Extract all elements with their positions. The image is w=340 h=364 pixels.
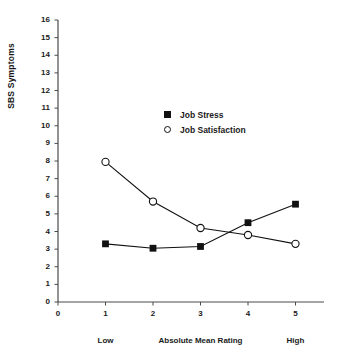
data-point-job-satisfaction-5 xyxy=(292,240,299,247)
data-point-job-stress-1 xyxy=(102,240,109,247)
data-point-job-satisfaction-4 xyxy=(244,231,251,238)
chart-figure: SBS Symptoms Job Stress Job Satisfaction… xyxy=(0,0,340,364)
x-tick-label: 2 xyxy=(145,310,161,318)
x-tick-label: 3 xyxy=(193,310,209,318)
y-tick-label: 4 xyxy=(32,228,50,236)
y-tick-label: 13 xyxy=(32,69,50,77)
legend-label: Job Stress xyxy=(180,110,223,120)
y-tick-label: 10 xyxy=(32,122,50,130)
data-point-job-satisfaction-1 xyxy=(102,158,109,165)
legend-label: Job Satisfaction xyxy=(180,125,246,135)
y-tick-label: 9 xyxy=(32,139,50,147)
y-tick-label: 3 xyxy=(32,245,50,253)
y-tick-label: 14 xyxy=(32,51,50,59)
y-tick-label: 5 xyxy=(32,210,50,218)
y-tick-label: 2 xyxy=(32,263,50,271)
x-tick-label: 5 xyxy=(288,310,304,318)
y-tick-label: 7 xyxy=(32,175,50,183)
data-point-job-satisfaction-2 xyxy=(149,198,156,205)
x-axis-annotation: Absolute Mean Rating xyxy=(159,336,243,345)
legend-item-job-stress: Job Stress xyxy=(160,107,246,122)
data-point-job-stress-4 xyxy=(245,219,252,226)
data-point-job-stress-3 xyxy=(197,243,204,250)
y-tick-label: 12 xyxy=(32,87,50,95)
chart-legend: Job Stress Job Satisfaction xyxy=(160,107,246,137)
y-tick-label: 16 xyxy=(32,16,50,24)
y-tick-label: 15 xyxy=(32,34,50,42)
data-point-job-satisfaction-3 xyxy=(197,224,204,231)
x-axis-annotation: High xyxy=(287,336,305,345)
data-point-job-stress-5 xyxy=(292,201,299,208)
y-tick-label: 8 xyxy=(32,157,50,165)
y-tick-label: 11 xyxy=(32,104,50,112)
legend-item-job-satisfaction: Job Satisfaction xyxy=(160,122,246,137)
x-axis-annotation: Low xyxy=(98,336,114,345)
x-tick-label: 4 xyxy=(240,310,256,318)
y-tick-label: 6 xyxy=(32,192,50,200)
x-tick-label: 1 xyxy=(98,310,114,318)
y-tick-label: 0 xyxy=(32,298,50,306)
data-point-job-stress-2 xyxy=(150,245,157,252)
open-circle-icon xyxy=(160,126,174,133)
x-tick-label: 0 xyxy=(50,310,66,318)
filled-square-icon xyxy=(160,111,174,118)
y-tick-label: 1 xyxy=(32,280,50,288)
